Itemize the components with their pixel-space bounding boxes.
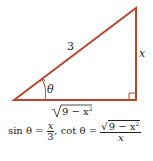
triangle [14, 8, 136, 100]
adjacent-exponent: 2 [89, 105, 93, 112]
opposite-label: x [139, 48, 145, 59]
hypotenuse-label: 3 [67, 41, 74, 52]
sin-text: sin θ = [8, 125, 44, 136]
angle-label: θ [47, 84, 54, 95]
right-angle-marker [129, 93, 136, 100]
cot-radicand: 9 − x [109, 121, 136, 132]
cot-numerator: √9 − x2 [100, 120, 141, 133]
adjacent-radicand: 9 − x [62, 106, 89, 117]
cot-fraction: √9 − x2x [100, 120, 141, 143]
adjacent-label: 9 − x2 [62, 106, 93, 117]
angle-arc [42, 79, 46, 100]
cot-exponent: 2 [135, 120, 139, 127]
separator: , [54, 125, 57, 136]
cot-text: cot θ = [61, 125, 97, 136]
formula: sin θ = x3, cot θ = √9 − x2x [8, 120, 141, 143]
cot-denominator: x [100, 133, 141, 143]
